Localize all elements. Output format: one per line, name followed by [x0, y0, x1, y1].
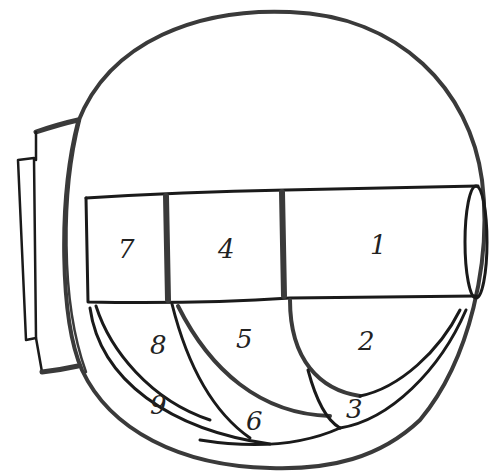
label-7: 7: [118, 234, 135, 264]
label-8: 8: [150, 330, 167, 360]
label-2: 2: [357, 326, 375, 356]
label-6: 6: [246, 406, 263, 436]
label-5: 5: [236, 324, 253, 354]
sketch-diagram: 7 4 1 8 5 2 9 6 3: [0, 0, 489, 472]
label-1: 1: [370, 230, 387, 260]
lower-curves: [90, 300, 466, 444]
label-9: 9: [150, 390, 167, 420]
label-4: 4: [217, 234, 235, 264]
top-row: [86, 186, 487, 303]
label-3: 3: [346, 394, 363, 424]
